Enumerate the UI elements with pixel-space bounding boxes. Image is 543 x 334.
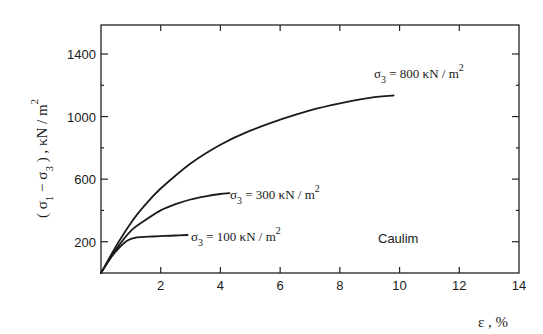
series-label-800: σ3 = 800 κN / m2 — [374, 62, 464, 85]
x-tick-label: 14 — [512, 278, 526, 293]
x-tick-label: 12 — [452, 278, 466, 293]
y-tick-label: 600 — [74, 172, 96, 187]
y-tick-label: 200 — [74, 235, 96, 250]
curves — [101, 96, 394, 274]
curve-sigma3-100 — [101, 235, 188, 273]
x-tick-label: 8 — [336, 278, 343, 293]
x-axis-ticks: 2468101214 — [157, 25, 526, 293]
x-axis-label: ε , % — [478, 314, 508, 330]
x-tick-label: 6 — [277, 278, 284, 293]
x-tick-label: 4 — [217, 278, 224, 293]
material-annotation: Caulim — [378, 231, 418, 246]
series-label-100: σ3 = 100 κN / m2 — [191, 225, 281, 248]
y-axis-label: ( σ1 − σ3 ) , κN / m2 — [28, 99, 55, 218]
x-tick-label: 2 — [157, 278, 164, 293]
series-label-300: σ3 = 300 κN / m2 — [230, 183, 320, 206]
y-tick-label: 1400 — [67, 47, 96, 62]
y-tick-label: 1000 — [67, 110, 96, 125]
curve-sigma3-800 — [101, 96, 394, 274]
stress-strain-chart: 2468101214 20060010001400 σ3 = 800 κN / … — [0, 0, 543, 334]
x-tick-label: 10 — [392, 278, 406, 293]
